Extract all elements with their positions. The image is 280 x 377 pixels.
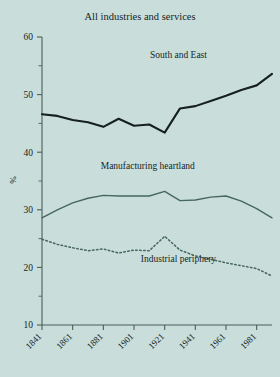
y-axis: 102030405060 [24,32,43,330]
y-tick-label: 20 [24,263,34,273]
x-axis: 18411861188119011921194119611981 [24,325,272,351]
chart-title: All industries and services [84,11,195,22]
y-tick-label: 40 [24,148,34,158]
x-tick-label: 1861 [54,331,74,351]
chart-series-group [42,74,272,276]
x-tick-label: 1901 [116,331,136,351]
y-tick-label: 60 [24,32,34,42]
x-tick-label: 1921 [146,331,166,351]
y-tick-label: 50 [24,90,34,100]
x-tick-label: 1841 [24,331,44,351]
y-tick-label: 10 [24,320,34,330]
chart-svg: All industries and services 102030405060… [0,0,280,377]
y-tick-label: 30 [24,205,34,215]
x-tick-label: 1941 [177,331,197,351]
series-label-manufacturing-heartland: Manufacturing heartland [101,161,195,171]
x-tick-label: 1881 [85,331,105,351]
series-line-manufacturing-heartland [42,191,272,217]
series-annotations-group: South and EastManufacturing heartlandInd… [101,50,217,264]
y-axis-title: % [8,176,18,184]
series-label-south-and-east: South and East [150,50,207,60]
series-line-south-and-east [42,74,272,133]
chart-figure: All industries and services 102030405060… [0,0,280,377]
x-tick-label: 1981 [238,331,258,351]
x-tick-label: 1961 [208,331,228,351]
series-label-industrial-periphery: Industrial periphery [141,254,216,264]
